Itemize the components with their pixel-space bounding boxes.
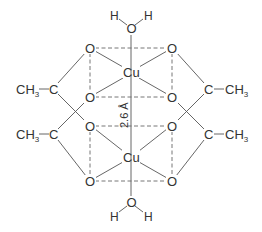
- atom-o: O: [167, 174, 177, 189]
- bottom-water-molecule: O H H: [110, 195, 153, 224]
- left-acetate-bonds: [39, 52, 86, 176]
- atom-h: H: [110, 210, 119, 224]
- atom-o: O: [85, 174, 95, 189]
- atom-o: O: [85, 119, 95, 134]
- atom-o: O: [85, 90, 95, 105]
- atom-o-water: O: [127, 21, 137, 36]
- copper-acetate-diagram: H H O: [0, 0, 262, 232]
- methyl-label: CH3: [16, 127, 40, 144]
- atom-o: O: [167, 119, 177, 134]
- atom-c: C: [204, 82, 213, 97]
- atom-o-water: O: [127, 195, 137, 210]
- atom-h: H: [144, 9, 153, 23]
- right-acetate-bonds: [176, 52, 224, 176]
- atom-c: C: [49, 82, 58, 97]
- atom-o: O: [85, 41, 95, 56]
- cu-cu-distance-label: 2.6 Å: [118, 102, 130, 128]
- atom-o: O: [167, 90, 177, 105]
- atom-o: O: [167, 41, 177, 56]
- top-water-molecule: H H O: [110, 9, 153, 36]
- methyl-label: CH3: [225, 82, 249, 99]
- methyl-label: CH3: [225, 127, 249, 144]
- atom-c: C: [204, 127, 213, 142]
- atom-h: H: [144, 210, 153, 224]
- methyl-label: CH3: [16, 82, 40, 99]
- atom-h: H: [110, 9, 119, 23]
- atom-c: C: [49, 127, 58, 142]
